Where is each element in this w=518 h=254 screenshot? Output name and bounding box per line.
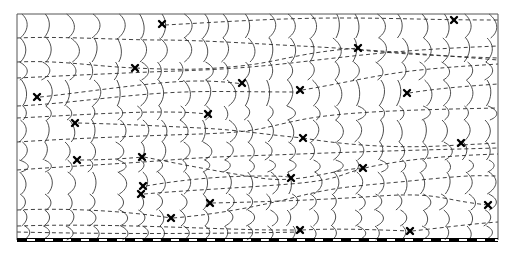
streamline-cell-diagram	[0, 0, 518, 254]
